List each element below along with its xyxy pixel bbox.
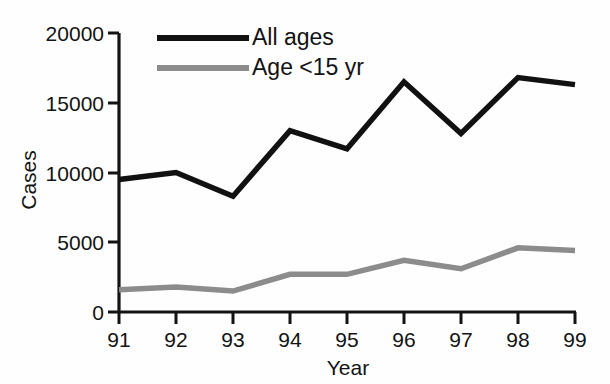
x-tick-label-96: 96 [392, 328, 415, 351]
x-tick-label-99: 99 [563, 328, 586, 351]
y-tick-label-10000: 10000 [46, 162, 104, 185]
x-tick-label-97: 97 [449, 328, 472, 351]
x-tick-label-95: 95 [335, 328, 358, 351]
y-tick-label-0: 0 [92, 301, 104, 324]
x-tick-label-94: 94 [278, 328, 302, 351]
x-tick-label-92: 92 [164, 328, 187, 351]
y-axis-title: Cases [17, 150, 40, 210]
legend-label-all-ages: All ages [252, 24, 334, 50]
legend-label-age-under-15: Age <15 yr [252, 54, 364, 80]
y-tick-label-5000: 5000 [57, 231, 104, 254]
line-chart: 20000 15000 10000 5000 0 91 92 93 94 95 … [0, 0, 610, 384]
chart-figure: 20000 15000 10000 5000 0 91 92 93 94 95 … [0, 0, 610, 384]
x-tick-label-91: 91 [107, 328, 130, 351]
y-tick-label-15000: 15000 [46, 92, 104, 115]
x-tick-label-93: 93 [221, 328, 244, 351]
x-axis-title: Year [327, 356, 369, 379]
x-tick-label-98: 98 [506, 328, 529, 351]
y-tick-label-20000: 20000 [46, 22, 104, 45]
